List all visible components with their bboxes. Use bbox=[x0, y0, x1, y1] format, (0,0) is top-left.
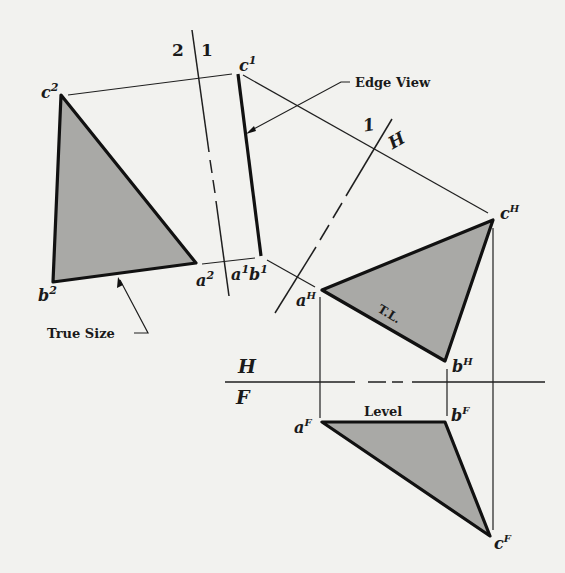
true-size-label: True Size bbox=[47, 326, 115, 341]
descriptive-geometry-diagram: 2 1 1 H H F c2 b2 a2 c1 a1b1 Edge View bbox=[0, 0, 565, 573]
fold-label-1: 1 bbox=[361, 114, 376, 136]
edge-view-label: Edge View bbox=[355, 75, 431, 90]
edge-view-line bbox=[238, 74, 261, 256]
fold-label-F: F bbox=[235, 386, 251, 408]
diagram-svg: 2 1 1 H H F c2 b2 a2 c1 a1b1 Edge View bbox=[0, 0, 565, 573]
true-size-triangle bbox=[53, 95, 196, 282]
vertex-bH: bH bbox=[452, 356, 473, 376]
vertex-a2: a2 bbox=[196, 269, 214, 290]
vertex-cH: cH bbox=[500, 203, 520, 223]
vertex-aF: aF bbox=[294, 417, 312, 437]
vertex-cF: cF bbox=[494, 533, 512, 553]
vertex-bF: bF bbox=[451, 405, 470, 425]
front-view-triangle bbox=[322, 422, 490, 536]
level-label: Level bbox=[364, 404, 402, 419]
vertex-aH: aH bbox=[296, 290, 316, 310]
vertex-a1b1: a1b1 bbox=[231, 263, 268, 284]
fold-label-H: H bbox=[237, 355, 257, 377]
fold-label-2: 2 bbox=[172, 40, 184, 60]
fold-label-1: 1 bbox=[201, 40, 213, 60]
fold-label-H: H bbox=[384, 127, 410, 153]
true-size-leader bbox=[117, 277, 148, 333]
vertex-c2: c2 bbox=[41, 81, 59, 102]
vertex-b2: b2 bbox=[38, 284, 57, 305]
top-view-triangle bbox=[322, 220, 493, 361]
vertex-c1: c1 bbox=[239, 54, 256, 75]
fold-line-2-1 bbox=[192, 30, 229, 296]
